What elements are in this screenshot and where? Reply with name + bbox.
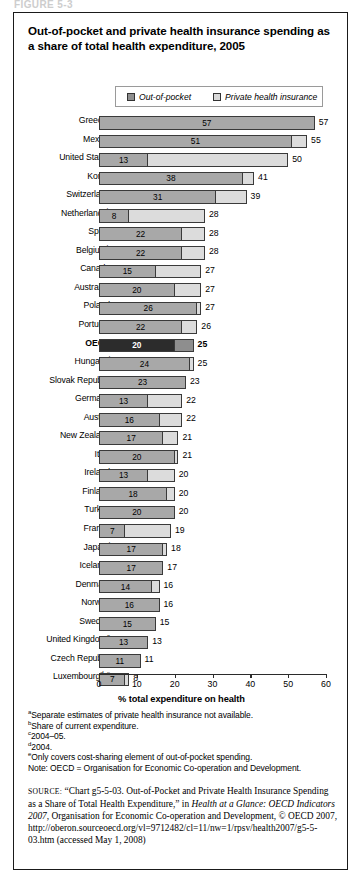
chart-row-total: 13: [152, 636, 162, 647]
bar-segment-out-of-pocket: 20: [99, 283, 175, 297]
bar-segment-out-of-pocket: 8: [99, 209, 129, 223]
x-axis-tick: [250, 674, 251, 678]
bar-segment-value: 13: [100, 637, 147, 649]
chart-row-total: 21: [182, 450, 192, 461]
x-axis-tick: [288, 674, 289, 678]
bar-segment-out-of-pocket: 16: [99, 598, 160, 612]
stacked-bar: 24: [99, 357, 194, 371]
bar-segment-out-of-pocket: 26: [99, 302, 197, 316]
chart-row-label: Greecea: [0, 115, 110, 126]
x-axis-tick-label: 20: [170, 679, 180, 689]
chart-row: Icelanda1717: [14, 559, 349, 578]
bar-segment-value: 20: [100, 284, 174, 296]
chart-row: Mexico5155: [14, 133, 349, 152]
chart-row-total: 22: [186, 395, 196, 406]
bar-segment-value: 13: [100, 395, 147, 407]
chart-row: Norway1616: [14, 596, 349, 615]
footnote-marker: e: [28, 751, 31, 758]
bar-segment-value: 22: [100, 228, 181, 240]
stacked-bar: 20: [99, 450, 178, 464]
bar-segment-private-health-insurance: [147, 469, 174, 483]
footnotes: aSeparate estimates of private health in…: [28, 710, 336, 774]
bar-segment-value: 14: [100, 581, 151, 593]
stacked-bar: 11: [99, 654, 141, 668]
legend-item-out-of-pocket: Out-of-pocket: [127, 92, 191, 102]
chart-row-total: 27: [205, 302, 215, 313]
chart-row: OECD2025: [14, 337, 349, 356]
source-citation: SOURCE: “Chart g5-5-03. Out-of-Pocket an…: [28, 785, 338, 846]
bar-segment-private-health-insurance: [174, 450, 179, 464]
bar-segment-private-health-insurance: [124, 524, 170, 538]
bar-segment-out-of-pocket: 11: [99, 654, 141, 668]
chart-row: Finland1820: [14, 485, 349, 504]
chart-row: Germany1322: [14, 392, 349, 411]
footnote: c2004–05.: [28, 731, 336, 742]
chart-row-label: Ireland: [0, 467, 110, 478]
chart-row-total: 21: [182, 432, 192, 443]
bar-segment-out-of-pocket: 18: [99, 487, 167, 501]
chart-row-total: 25: [198, 339, 208, 350]
footnote-marker: a: [28, 708, 31, 715]
bar-segment-value: 26: [100, 303, 196, 315]
chart-row-label: Japand: [0, 542, 110, 553]
chart-row-total: 20: [179, 506, 189, 517]
chart-row: Sweden1515: [14, 615, 349, 634]
footnote: d2004.: [28, 742, 336, 753]
bar-segment-value: 31: [100, 191, 215, 203]
chart-row-total: 28: [209, 246, 219, 257]
bar-segment-private-health-insurance: [181, 320, 197, 334]
bar-segment-out-of-pocket: 20: [99, 339, 175, 353]
footnote-marker: b: [28, 719, 31, 726]
bar-segment-private-health-insurance: [215, 190, 246, 204]
chart-row-label: Korea: [0, 171, 110, 182]
bar-segment-out-of-pocket: 14: [99, 580, 152, 594]
chart-row: Turkey2020: [14, 503, 349, 522]
chart-row-label: Italy: [0, 449, 110, 460]
bar-segment-value: 17: [100, 544, 162, 556]
bar-segment-value: 51: [100, 136, 291, 148]
chart-row-label: Luxembourgd, e: [0, 671, 110, 682]
bar-segment-value: 7: [100, 674, 124, 686]
chart-row-total: 41: [258, 172, 268, 183]
stacked-bar: 38: [99, 172, 254, 186]
chart-row-total: 27: [205, 265, 215, 276]
stacked-bar: 13: [99, 636, 148, 650]
bar-segment-out-of-pocket: 22: [99, 320, 182, 334]
stacked-bar: 31: [99, 190, 247, 204]
stacked-bar: 13: [99, 153, 288, 167]
chart-row-label: Slovak Republic: [0, 375, 110, 386]
chart-row: Belgiumb2228: [14, 244, 349, 263]
chart-row: Netherlandsb828: [14, 207, 349, 226]
stacked-bar: 16: [99, 598, 160, 612]
chart-row: Australiac2027: [14, 281, 349, 300]
chart-row: Canada1527: [14, 262, 349, 281]
x-axis-tick-label: 10: [132, 679, 142, 689]
x-axis-tick-label: 40: [245, 679, 255, 689]
figure-label: FIGURE 5-3: [14, 0, 134, 9]
chart-row-label: Portugal: [0, 319, 110, 330]
legend-swatch-private-health-insurance: [213, 93, 221, 101]
bar-segment-out-of-pocket: 51: [99, 135, 292, 149]
chart-row-label: Austria: [0, 412, 110, 423]
chart-row-total: 23: [190, 376, 200, 387]
chart-row: Hungaryd2425: [14, 355, 349, 374]
bar-segment-out-of-pocket: 22: [99, 227, 182, 241]
footnote-marker: c: [28, 729, 31, 736]
stacked-bar: 51: [99, 135, 307, 149]
x-axis-tick: [213, 674, 214, 678]
chart-row-total: 39: [251, 191, 261, 202]
legend-swatch-out-of-pocket: [127, 93, 135, 101]
chart-row-label: Icelanda: [0, 560, 110, 571]
chart-row: United States1350: [14, 151, 349, 170]
chart-row-label: Hungaryd: [0, 356, 110, 367]
chart-row-label: Australiac: [0, 282, 110, 293]
bar-segment-out-of-pocket: 17: [99, 543, 163, 557]
bar-segment-private-health-insurance: [159, 413, 183, 427]
chart-row: Italy2021: [14, 448, 349, 467]
chart-row: Ireland1320: [14, 466, 349, 485]
bar-segment-private-health-insurance: [196, 302, 201, 316]
chart-row-label: Mexico: [0, 134, 110, 145]
bar-segment-out-of-pocket: 20: [99, 450, 175, 464]
chart-row: France719: [14, 522, 349, 541]
chart-row-total: 15: [160, 617, 170, 628]
